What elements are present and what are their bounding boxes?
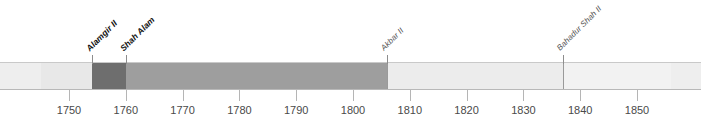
axis-tick-1820 [467,90,468,101]
segment-divider-bahadur-shah-ii [563,63,564,89]
axis-tick-label-1800: 1800 [341,104,365,116]
axis-tick-1830 [523,90,524,101]
reign-label-akbar-ii: Akbar II [376,23,409,56]
timeline-segment-alamgir-ii [92,63,126,89]
axis-tick-label-1780: 1780 [227,104,251,116]
reign-leader-akbar-ii [387,55,388,64]
timeline-segment-unlabeled [41,63,92,89]
axis-tick-1810 [410,90,411,101]
axis-tick-1760 [126,90,127,101]
axis-tick-1770 [183,90,184,101]
axis-tick-label-1790: 1790 [284,104,308,116]
axis-tick-1800 [353,90,354,101]
axis-tick-label-1840: 1840 [568,104,592,116]
timeline-segment-akbar-ii [387,63,563,89]
reign-label-shah-alam: Shah Alam [115,12,159,56]
reign-label-alamgir-ii: Alamgir II [81,15,122,56]
timeline-band [0,62,701,90]
axis-tick-1780 [239,90,240,101]
timeline-segment-shah-alam [126,63,387,89]
axis-tick-1840 [580,90,581,101]
axis-tick-label-1830: 1830 [511,104,535,116]
reign-timeline-chart: Alamgir IIShah AlamAkbar IIBahadur Shah … [0,0,701,136]
axis-tick-label-1810: 1810 [398,104,422,116]
axis-tick-1750 [69,90,70,101]
axis-tick-label-1760: 1760 [114,104,138,116]
axis-tick-label-1750: 1750 [57,104,81,116]
axis-tick-1790 [296,90,297,101]
reign-leader-alamgir-ii [92,55,93,64]
axis-tick-1850 [637,90,638,101]
segment-divider-akbar-ii [387,63,388,89]
reign-leader-bahadur-shah-ii [563,55,564,64]
axis-tick-label-1820: 1820 [454,104,478,116]
timeline-segment-bahadur-shah-ii [563,63,671,89]
reign-leader-shah-alam [126,55,127,64]
axis-tick-label-1850: 1850 [625,104,649,116]
reign-label-bahadur-shah-ii: Bahadur Shah II [552,1,607,56]
axis-tick-label-1770: 1770 [170,104,194,116]
